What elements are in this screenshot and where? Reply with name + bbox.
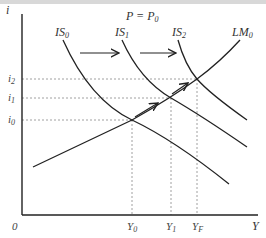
is1-curve bbox=[122, 40, 247, 147]
arrow-along-lm-1 bbox=[135, 103, 158, 117]
arrow-along-lm-2 bbox=[172, 83, 188, 94]
curves bbox=[33, 40, 247, 184]
guide-lines bbox=[22, 79, 197, 215]
x-axis-label: Y bbox=[252, 219, 260, 233]
is0-label: IS0 bbox=[54, 25, 69, 40]
price-condition-label: P = P0 bbox=[125, 9, 159, 24]
tick-yf: YF bbox=[192, 220, 203, 234]
origin-label: 0 bbox=[12, 220, 18, 232]
is1-label: IS1 bbox=[114, 25, 129, 40]
is-lm-diagram: P = P0 i Y 0 IS0 IS1 IS2 LM0 i2 i1 i0 Y0… bbox=[0, 0, 266, 238]
tick-i2: i2 bbox=[8, 72, 15, 86]
lm0-curve bbox=[33, 40, 240, 167]
lm0-label: LM0 bbox=[231, 25, 253, 40]
y-axis-label: i bbox=[6, 3, 9, 17]
tick-y0: Y0 bbox=[127, 220, 137, 234]
is2-label: IS2 bbox=[171, 25, 186, 40]
tick-y1: Y1 bbox=[166, 220, 176, 234]
tick-i1: i1 bbox=[8, 91, 15, 105]
tick-i0: i0 bbox=[8, 113, 15, 127]
